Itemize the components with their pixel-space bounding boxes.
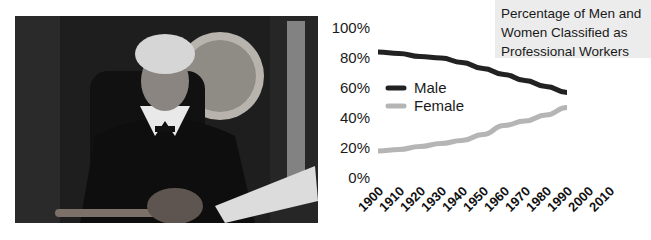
legend: MaleFemale xyxy=(388,79,464,114)
x-tick-label: 2010 xyxy=(586,184,617,215)
gavel-head xyxy=(147,188,203,223)
chart-title-line-2: Women Classified as xyxy=(501,23,651,42)
y-axis: 0%20%40%60%80%100% xyxy=(332,19,370,186)
legend-label-male: Male xyxy=(414,79,447,96)
hair xyxy=(135,34,195,74)
y-tick-label: 40% xyxy=(340,109,370,126)
photo-illustration xyxy=(15,16,318,223)
chart-title-line-1: Percentage of Men and xyxy=(501,4,651,23)
flag xyxy=(287,21,305,181)
series-line-female xyxy=(378,108,567,152)
curtain-left xyxy=(15,16,60,223)
y-tick-label: 0% xyxy=(348,169,370,186)
y-tick-label: 20% xyxy=(340,139,370,156)
x-axis: 1900191019201930194019501960197019801990… xyxy=(355,184,617,215)
chart-title: Percentage of Men and Women Classified a… xyxy=(495,0,651,58)
chart-title-line-3: Professional Workers xyxy=(501,42,651,61)
y-tick-label: 100% xyxy=(332,19,370,36)
neck-shadow xyxy=(155,126,175,132)
judge-photo xyxy=(15,16,318,223)
series-group xyxy=(378,52,567,151)
legend-label-female: Female xyxy=(414,97,464,114)
y-tick-label: 60% xyxy=(340,79,370,96)
y-tick-label: 80% xyxy=(340,49,370,66)
